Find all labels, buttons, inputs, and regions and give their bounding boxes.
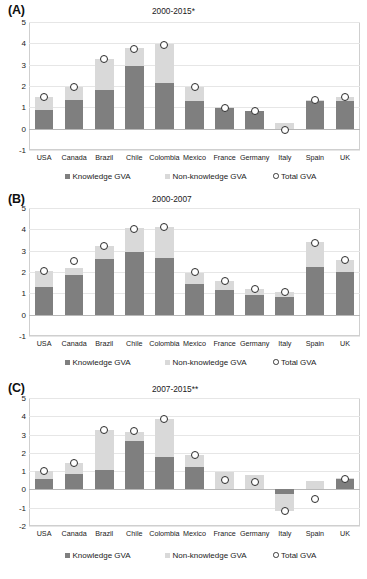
x-axis-tick-label-chile: Chile xyxy=(126,529,142,538)
panel-c-plot-area: 543210-1-2USACanadaBrazilChileColombiaMe… xyxy=(29,398,360,526)
y-axis-tick-label: 3 xyxy=(22,60,26,69)
legend-item-nonknowledge[interactable]: Non-knowledge GVA xyxy=(165,551,247,560)
legend-item-knowledge[interactable]: Knowledge GVA xyxy=(65,172,131,181)
bar-segment-knowledge xyxy=(125,252,144,315)
y-axis-tick-label: 3 xyxy=(22,246,26,255)
panel-b-title: 2000-2007 xyxy=(152,194,192,204)
x-axis-tick-label-france: France xyxy=(213,153,235,162)
total-gva-marker xyxy=(221,277,229,285)
y-axis-tick-label: -1 xyxy=(19,503,26,512)
bar-segment-knowledge xyxy=(185,101,204,129)
legend-item-knowledge[interactable]: Knowledge GVA xyxy=(65,358,131,367)
bar-segment-knowledge xyxy=(215,290,234,315)
total-gva-marker xyxy=(70,83,78,91)
x-axis-tick-label-brazil: Brazil xyxy=(95,529,113,538)
x-axis-tick-label-spain: Spain xyxy=(306,153,324,162)
total-gva-marker xyxy=(70,257,78,265)
legend-item-total[interactable]: Total GVA xyxy=(273,551,316,560)
legend-label: Total GVA xyxy=(281,358,316,367)
gridline xyxy=(29,65,360,66)
total-gva-marker xyxy=(191,268,199,276)
x-axis-tick-label-chile: Chile xyxy=(126,153,142,162)
bar-segment-knowledge xyxy=(95,90,114,128)
bar-segment-knowledge xyxy=(155,258,174,314)
bar-segment-knowledge xyxy=(125,66,144,129)
legend-swatch-total-icon xyxy=(273,359,279,365)
legend-item-nonknowledge[interactable]: Non-knowledge GVA xyxy=(165,172,247,181)
legend-label: Knowledge GVA xyxy=(73,551,131,560)
x-axis-tick-label-uk: UK xyxy=(340,529,350,538)
total-gva-marker xyxy=(40,93,48,101)
x-axis-tick-label-mexico: Mexico xyxy=(183,153,206,162)
legend-item-total[interactable]: Total GVA xyxy=(273,172,316,181)
bar-segment-knowledge xyxy=(306,267,325,315)
total-gva-marker xyxy=(100,242,108,250)
x-axis-tick-label-colombia: Colombia xyxy=(149,339,179,348)
total-gva-marker xyxy=(191,83,199,91)
bar-segment-non-knowledge xyxy=(65,268,84,275)
gridline xyxy=(29,336,360,337)
legend-swatch-nonknowledge-icon xyxy=(165,174,170,179)
legend-swatch-total-icon xyxy=(273,552,279,558)
panel-b-plot-area: 543210-1USACanadaBrazilChileColombiaMexi… xyxy=(29,208,360,336)
x-axis-tick-label-france: France xyxy=(213,339,235,348)
gridline xyxy=(29,22,360,23)
panel-c: (C) 2007-2015** 543210-1-2USACanadaBrazi… xyxy=(0,376,367,579)
legend-item-knowledge[interactable]: Knowledge GVA xyxy=(65,551,131,560)
zero-line xyxy=(29,129,360,130)
x-axis-tick-label-spain: Spain xyxy=(306,339,324,348)
x-axis-tick-label-italy: Italy xyxy=(278,529,291,538)
legend-label: Knowledge GVA xyxy=(73,358,131,367)
y-axis-tick-label: 4 xyxy=(22,225,26,234)
total-gva-marker xyxy=(40,267,48,275)
bar-segment-knowledge xyxy=(125,441,144,490)
legend-label: Non-knowledge GVA xyxy=(173,172,247,181)
total-gva-marker xyxy=(70,459,78,467)
y-axis-tick-label: 0 xyxy=(22,310,26,319)
x-axis-tick-label-usa: USA xyxy=(37,153,52,162)
total-gva-marker xyxy=(251,478,259,486)
panel-a-title: 2000-2015* xyxy=(152,6,195,16)
legend-swatch-knowledge-icon xyxy=(65,553,70,558)
x-axis-tick-label-mexico: Mexico xyxy=(183,529,206,538)
y-axis-tick-label: 1 xyxy=(22,103,26,112)
gridline xyxy=(29,508,360,509)
y-axis-tick-label: 4 xyxy=(22,39,26,48)
total-gva-marker xyxy=(281,288,289,296)
x-axis-tick-label-germany: Germany xyxy=(240,529,270,538)
gridline xyxy=(29,398,360,399)
bar-segment-knowledge xyxy=(35,287,54,315)
bar-segment-non-knowledge xyxy=(95,430,114,470)
y-axis-tick-label: 3 xyxy=(22,430,26,439)
gridline xyxy=(29,229,360,230)
total-gva-marker xyxy=(160,223,168,231)
total-gva-marker xyxy=(100,426,108,434)
panel-a-plot-area: 543210-1USACanadaBrazilChileColombiaMexi… xyxy=(29,22,360,150)
x-axis-tick-label-brazil: Brazil xyxy=(95,153,113,162)
x-axis-tick-label-germany: Germany xyxy=(240,153,270,162)
total-gva-marker xyxy=(191,451,199,459)
gridline xyxy=(29,208,360,209)
y-axis-tick-label: 0 xyxy=(22,124,26,133)
y-axis-tick-label: -2 xyxy=(19,522,26,531)
total-gva-marker xyxy=(281,507,289,515)
panel-b-legend: Knowledge GVANon-knowledge GVATotal GVA xyxy=(65,356,355,368)
x-axis-tick-label-canada: Canada xyxy=(62,529,87,538)
panel-b: (B) 2000-2007 543210-1USACanadaBrazilChi… xyxy=(0,186,367,376)
y-axis-tick-label: -1 xyxy=(19,146,26,155)
y-axis-tick-label: 2 xyxy=(22,268,26,277)
x-axis-tick-label-colombia: Colombia xyxy=(149,153,179,162)
legend-item-nonknowledge[interactable]: Non-knowledge GVA xyxy=(165,358,247,367)
y-axis-tick-label: 1 xyxy=(22,467,26,476)
bar-segment-knowledge xyxy=(35,110,54,129)
bar-segment-knowledge xyxy=(65,474,84,489)
bar-segment-knowledge xyxy=(245,295,264,315)
zero-line xyxy=(29,489,360,490)
legend-item-total[interactable]: Total GVA xyxy=(273,358,316,367)
bar-segment-knowledge xyxy=(35,479,54,489)
total-gva-marker xyxy=(341,93,349,101)
bar-segment-non-knowledge xyxy=(155,227,174,258)
x-axis-tick-label-chile: Chile xyxy=(126,339,142,348)
total-gva-marker xyxy=(311,239,319,247)
y-axis-tick-label: -1 xyxy=(19,332,26,341)
